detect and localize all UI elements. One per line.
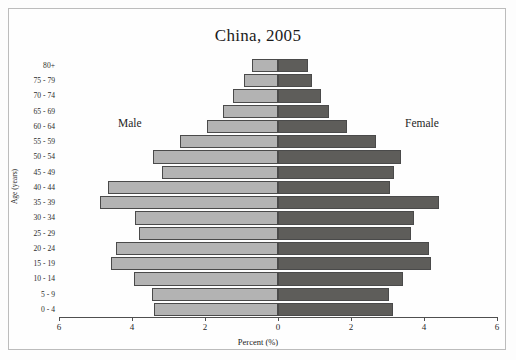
y-axis-tick-label: 60 - 64 [10, 119, 55, 134]
x-axis-tick-label: 4 [117, 322, 147, 332]
bar-male [116, 242, 278, 255]
x-axis-tick [278, 317, 279, 321]
bar-row [59, 256, 497, 271]
x-axis-tick [424, 317, 425, 321]
x-axis-tick [497, 317, 498, 321]
bar-female [278, 196, 439, 209]
y-axis-tick-label: 5 - 9 [10, 287, 55, 302]
bar-female [278, 150, 401, 163]
bar-row [59, 226, 497, 241]
bar-male [180, 135, 278, 148]
x-axis-tick [132, 317, 133, 321]
y-axis-tick-label: 80+ [10, 58, 55, 73]
x-axis-tick [351, 317, 352, 321]
y-axis-tick-label: 65 - 69 [10, 104, 55, 119]
bar-female [278, 303, 393, 316]
y-axis-title: Age (years) [10, 152, 19, 222]
bar-row [59, 73, 497, 88]
x-axis-tick-label: 2 [190, 322, 220, 332]
x-axis-tick-label: 0 [263, 322, 293, 332]
bar-row [59, 271, 497, 286]
population-pyramid-figure: China, 2005 80+75 - 7970 - 7465 - 6960 -… [0, 0, 516, 360]
bar-female [278, 89, 321, 102]
bar-male [111, 257, 278, 270]
bar-male [108, 181, 278, 194]
bar-female [278, 120, 347, 133]
bar-row [59, 134, 497, 149]
plot-area [59, 58, 497, 317]
bar-row [59, 180, 497, 195]
y-axis-tick-label: 15 - 19 [10, 256, 55, 271]
bar-female [278, 242, 429, 255]
bar-male [233, 89, 278, 102]
series-label-male: Male [118, 117, 142, 129]
bar-female [278, 272, 403, 285]
bar-male [207, 120, 278, 133]
x-axis-tick-label: 6 [482, 322, 512, 332]
bar-female [278, 181, 390, 194]
bar-female [278, 288, 389, 301]
y-axis-tick-label: 25 - 29 [10, 226, 55, 241]
y-axis-tick-label: 55 - 59 [10, 134, 55, 149]
bar-row [59, 165, 497, 180]
bar-female [278, 257, 431, 270]
x-axis-tick-label: 4 [409, 322, 439, 332]
bar-male [162, 166, 278, 179]
bar-row [59, 302, 497, 317]
y-axis-tick-label: 0 - 4 [10, 302, 55, 317]
bar-male [153, 150, 278, 163]
bar-male [152, 288, 278, 301]
y-axis-tick-label: 75 - 79 [10, 73, 55, 88]
x-axis-tick [59, 317, 60, 321]
x-axis-tick-label: 6 [44, 322, 74, 332]
y-axis-tick-label: 70 - 74 [10, 88, 55, 103]
bar-row [59, 88, 497, 103]
bar-male [100, 196, 278, 209]
bar-male [252, 59, 278, 72]
bar-male [154, 303, 278, 316]
bar-female [278, 211, 414, 224]
bar-row [59, 195, 497, 210]
x-axis-tick-label: 2 [336, 322, 366, 332]
y-axis-tick-label: 10 - 14 [10, 271, 55, 286]
bar-male [223, 105, 278, 118]
bar-row [59, 210, 497, 225]
bar-female [278, 74, 312, 87]
bar-row [59, 241, 497, 256]
bar-female [278, 59, 308, 72]
x-axis-tick [205, 317, 206, 321]
bar-row [59, 149, 497, 164]
bar-female [278, 105, 329, 118]
bar-row [59, 58, 497, 73]
x-axis-title: Percent (%) [0, 337, 516, 347]
bar-male [244, 74, 278, 87]
bar-male [135, 211, 278, 224]
series-label-female: Female [405, 117, 439, 129]
bar-male [139, 227, 278, 240]
page-title: China, 2005 [0, 26, 516, 46]
bar-male [134, 272, 278, 285]
bar-female [278, 227, 411, 240]
bar-female [278, 135, 376, 148]
bar-row [59, 287, 497, 302]
bar-female [278, 166, 394, 179]
y-axis-tick-label: 20 - 24 [10, 241, 55, 256]
